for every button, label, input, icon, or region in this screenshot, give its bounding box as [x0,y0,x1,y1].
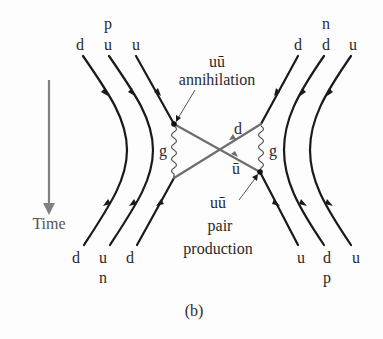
annihilation-vertex [171,121,177,127]
diagram-svg: Time p d u u n d d u [0,0,383,339]
top-right-hadron-label: n [322,15,330,32]
right-quark-line-d [284,56,324,245]
left-quark-line-d [83,56,127,245]
figure-caption: (b) [185,302,204,320]
right-incoming-d-line [261,56,298,124]
top-right-quark-2: d [322,36,330,53]
right-quark-line-u [310,56,351,245]
top-left-quark-2: u [104,36,112,53]
feynman-diagram: Time p d u u n d d u [0,0,383,339]
top-left-quark-1: d [76,36,84,53]
bottom-left-quark-2: u [99,249,107,266]
top-left-hadron-label: p [104,15,112,33]
pair-production-label-line2: pair [208,217,234,235]
bottom-right-hadron-label: p [323,269,331,287]
top-right-quark-1: d [294,36,302,53]
bottom-right-quark-2: d [323,249,331,266]
bottom-right-quark-1: u [297,249,305,266]
bottom-left-quark-1: d [72,249,80,266]
exchanged-ubar-label: ū [232,160,240,177]
bottom-right-quark-3: u [352,249,360,266]
annihilation-leader-arrowhead [176,115,181,122]
left-gluon-line [172,126,177,178]
right-gluon-line [259,126,264,172]
annihilation-label-line1: uū [209,53,225,70]
left-gluon-label: g [159,142,167,160]
annihilation-leader-line [177,90,195,120]
time-arrow-icon [43,80,55,215]
bottom-left-quark-3: d [126,249,134,266]
top-left-quark-3: u [132,36,140,53]
left-quark-line-u [109,56,153,245]
pair-production-label-line3: production [183,240,252,258]
pair-production-leader-arrowhead [252,174,258,181]
pair-production-leader-line [239,176,257,200]
left-incoming-u-line [136,56,174,124]
annihilation-label-line2: annihilation [179,71,255,88]
pair-production-label-line1: uū [210,194,226,211]
left-outgoing-d-line [137,178,174,245]
right-outgoing-u-line [260,172,298,245]
top-right-quark-3: u [349,36,357,53]
pair-production-vertex [257,169,263,175]
exchange-line-u-to-right [174,124,260,172]
bottom-left-hadron-label: n [99,269,107,286]
time-label: Time [32,215,65,232]
right-gluon-label: g [269,142,277,160]
exchanged-d-label: d [234,120,242,137]
